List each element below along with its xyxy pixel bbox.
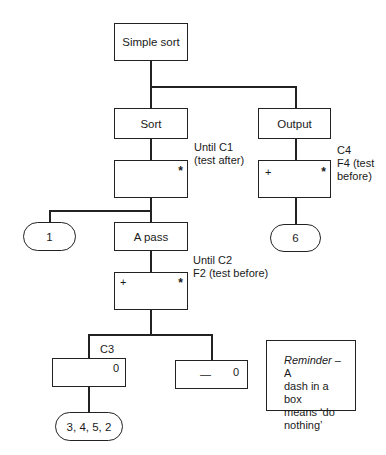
connector-to-else [211, 334, 213, 360]
a-pass-label: A pass [134, 231, 169, 243]
connector-c3-node [88, 387, 90, 412]
connector-root-sort [150, 61, 152, 108]
connector-selection-branch [88, 334, 212, 336]
do-nothing-dash: — [200, 369, 211, 380]
simple-sort-label: Simple sort [122, 36, 180, 48]
output-iteration-box: + * [258, 160, 331, 198]
output-condition: C4 F4 (test before) [337, 144, 374, 183]
node-1: 1 [23, 222, 76, 251]
reminder-note: Reminder – A dash in a box means ‘do not… [266, 340, 356, 411]
reminder-title: Reminder [284, 354, 332, 366]
iteration-star-icon: * [178, 165, 183, 177]
plus-icon: + [265, 167, 271, 178]
c3-condition: C3 [100, 343, 114, 356]
connector-root-branch [150, 86, 296, 88]
node-3452: 3, 4, 5, 2 [55, 412, 123, 441]
selection-symbol: 0 [113, 363, 119, 374]
sort-box: Sort [114, 108, 188, 139]
output-box: Output [258, 108, 331, 139]
selection-symbol: 0 [233, 367, 239, 378]
connector-to-c3 [88, 334, 90, 358]
connector-apass-loop [150, 251, 152, 272]
connector-loop-6 [295, 198, 297, 224]
a-pass-box: A pass [114, 222, 188, 251]
selection-c3-box: 0 [52, 358, 126, 387]
connector-output-loop [295, 139, 297, 160]
connector-sort-loop [150, 139, 152, 160]
connector-root-output [295, 86, 297, 108]
iteration-star-icon: * [178, 277, 183, 289]
node-6-label: 6 [292, 232, 298, 244]
selection-else-box: — 0 [175, 360, 248, 389]
iteration-star-icon: * [321, 166, 326, 178]
connector-loop-selection [150, 310, 152, 334]
sort-label: Sort [140, 118, 161, 130]
connector-branch-1 [49, 210, 151, 212]
plus-icon: + [120, 277, 126, 288]
sort-iteration-box: * [114, 160, 188, 198]
node-6: 6 [270, 224, 321, 252]
a-pass-iteration-box: + * [114, 272, 188, 310]
sort-condition: Until C1 (test after) [194, 141, 244, 167]
simple-sort-box: Simple sort [114, 23, 188, 61]
node-1-label: 1 [46, 231, 52, 243]
connector-to-node-1 [49, 210, 51, 222]
a-pass-condition: Until C2 F2 (test before) [193, 254, 268, 280]
node-3452-label: 3, 4, 5, 2 [67, 421, 112, 433]
output-label: Output [277, 118, 312, 130]
